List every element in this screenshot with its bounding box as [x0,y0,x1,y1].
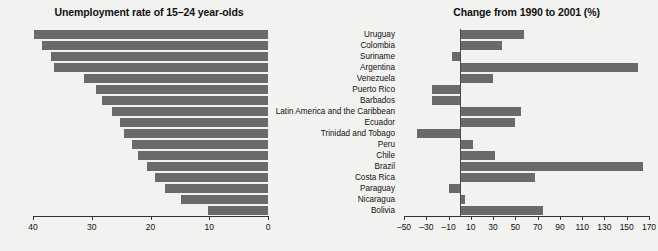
left-chart-plot-area: 403020100 [33,29,268,217]
bar-row [33,95,268,106]
unemployment-bar [51,52,268,61]
category-label: Suriname [262,51,395,62]
bar-row [33,117,268,128]
bar-row [33,150,268,161]
left-axis-tick [151,216,152,220]
change-bar-positive [460,41,502,50]
right-chart-panel: Change from 1990 to 2001 (%) –50–30–1010… [395,0,658,251]
bar-row [404,183,649,194]
change-bar-positive [460,151,496,160]
left-axis-tick [209,216,210,220]
unemployment-bar [155,173,268,182]
left-axis-tick [33,216,34,220]
unemployment-bar [147,162,268,171]
left-axis-tick-label: 20 [146,222,155,232]
unemployment-bar [181,195,268,204]
bar-row [404,40,649,51]
bar-row [33,73,268,84]
unemployment-bar [138,151,268,160]
right-chart-plot-area: –50–30–101030507090110130150170 [404,29,649,217]
category-label: Peru [262,139,395,150]
unemployment-bar [54,63,268,72]
right-axis-tick-label: 170 [642,222,656,232]
unemployment-bar [132,140,268,149]
right-axis-tick [449,216,450,220]
category-label: Argentina [262,62,395,73]
right-axis-tick-label: 10 [466,222,475,232]
category-label: Venezuela [262,73,395,84]
unemployment-bar [96,85,268,94]
left-axis-tick-label: 10 [205,222,214,232]
bar-row [404,84,649,95]
right-axis-tick [627,216,628,220]
category-label: Chile [262,150,395,161]
unemployment-bar [42,41,268,50]
category-label-column: UruguayColombiaSurinameArgentinaVenezuel… [262,0,395,251]
left-axis-tick [92,216,93,220]
change-bar-positive [460,118,516,127]
right-axis-tick [649,216,650,220]
category-label: Bolivia [262,205,395,216]
change-bar-positive [460,74,493,83]
right-axis-tick [604,216,605,220]
category-label: Ecuador [262,117,395,128]
bar-row [404,95,649,106]
right-axis-tick [538,216,539,220]
category-label: Uruguay [262,29,395,40]
right-axis-tick-label: –50 [397,222,411,232]
bar-row [33,84,268,95]
bar-row [33,183,268,194]
right-chart-title: Change from 1990 to 2001 (%) [395,6,658,18]
bar-row [404,205,649,216]
change-bar-positive [460,173,536,182]
left-axis-tick-label: 30 [87,222,96,232]
bar-row [33,62,268,73]
right-axis-tick [404,216,405,220]
unemployment-bar [112,107,268,116]
right-axis-tick-label: 50 [511,222,520,232]
right-axis-tick-label: –30 [419,222,433,232]
bar-row [404,128,649,139]
bar-row [404,172,649,183]
change-bar-positive [460,162,644,171]
bar-row [404,51,649,62]
bar-row [33,40,268,51]
right-axis-tick [560,216,561,220]
left-chart-panel: Unemployment rate of 15–24 year-olds 403… [0,0,290,251]
bar-row [33,161,268,172]
right-axis-tick-label: 150 [620,222,634,232]
right-axis-tick-label: 70 [533,222,542,232]
category-label: Nicaragua [262,194,395,205]
bar-row [404,29,649,40]
change-bar-positive [460,30,525,39]
change-bar-negative [417,129,459,138]
right-axis-tick [582,216,583,220]
right-axis-tick-label: 30 [488,222,497,232]
bar-row [404,161,649,172]
right-axis-tick-label: 130 [597,222,611,232]
bar-row [33,172,268,183]
left-axis-tick-label: 40 [28,222,37,232]
unemployment-bar [120,118,268,127]
unemployment-bar [165,184,268,193]
bar-row [404,73,649,84]
right-axis-tick-label: –10 [441,222,455,232]
change-bar-negative [449,184,460,193]
change-bar-positive [460,140,473,149]
unemployment-bar [84,74,268,83]
change-bar-positive [460,107,521,116]
bar-row [404,62,649,73]
right-axis-tick-label: 90 [555,222,564,232]
change-bar-positive [460,63,638,72]
category-label: Brazil [262,161,395,172]
right-axis-tick [471,216,472,220]
right-axis-tick [493,216,494,220]
bar-row [404,139,649,150]
category-label: Paraguay [262,183,395,194]
unemployment-bar [102,96,268,105]
right-axis-tick-label: 110 [575,222,589,232]
right-axis-tick [515,216,516,220]
category-label: Barbados [262,95,395,106]
bar-row [404,117,649,128]
bar-row [404,194,649,205]
